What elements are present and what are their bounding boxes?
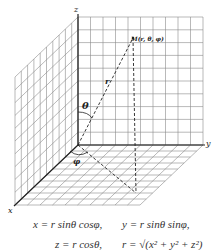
point-label: M(r, θ, φ) bbox=[130, 35, 164, 43]
phi-label: φ bbox=[73, 156, 81, 166]
formula-z: z = r cosθ, bbox=[55, 238, 102, 250]
projection-vertical-line bbox=[133, 38, 136, 193]
formula-x: x = r sinθ cosφ, bbox=[33, 218, 102, 230]
phi-arc bbox=[70, 151, 88, 155]
theta-label: θ bbox=[82, 100, 89, 111]
formula-r: r = √(x² + y² + z²) bbox=[122, 238, 202, 250]
theta-arc bbox=[78, 112, 92, 118]
formula-y: y = r sinθ sinφ, bbox=[122, 218, 190, 230]
grid-lines bbox=[15, 17, 203, 205]
x-axis-label: x bbox=[8, 206, 13, 215]
radius-line bbox=[78, 38, 133, 145]
z-axis-label: z bbox=[73, 5, 79, 14]
y-axis-label: y bbox=[205, 139, 211, 148]
x-axis bbox=[14, 145, 78, 206]
